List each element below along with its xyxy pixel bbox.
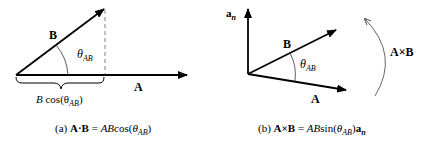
- cross-product-label: A×B: [390, 46, 414, 58]
- vector-b-label: B: [283, 38, 291, 50]
- angle-label: θAB: [77, 48, 93, 63]
- normal-vector-label: an: [226, 8, 236, 22]
- angle-arc: [290, 53, 295, 81]
- diagram-b-cross-product: [248, 9, 385, 96]
- rotation-arrow: [365, 19, 385, 96]
- caption-a: (a) A·B = ABcos(θAB): [55, 122, 151, 137]
- angle-arc: [56, 45, 68, 75]
- vector-a-arrow: [248, 74, 346, 90]
- caption-b: (b) A×B = ABsin(θAB)an: [258, 122, 366, 137]
- vector-a-label: A: [311, 93, 320, 105]
- projection-label: B cos(θAB): [36, 94, 83, 108]
- vector-b-arrow: [248, 30, 336, 74]
- angle-label: θAB: [300, 58, 316, 73]
- diagram-a-dot-product: [16, 9, 187, 89]
- vector-a-label: A: [134, 81, 143, 93]
- vector-b-arrow: [16, 9, 104, 75]
- vector-b-label: B: [49, 29, 57, 41]
- projection-brace: [16, 77, 104, 89]
